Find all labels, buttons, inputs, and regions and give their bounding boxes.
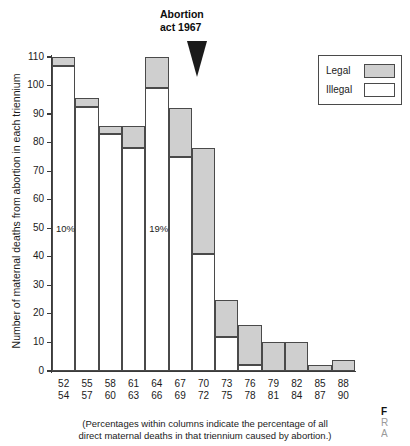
x-tick-label-88-90: 8890 <box>332 378 355 401</box>
bar-85-87 <box>308 365 331 371</box>
bar-61-63 <box>122 126 145 371</box>
y-tick-30 <box>47 285 51 286</box>
x-label-start-55-57: 55 <box>81 378 92 389</box>
x-tick-label-67-69: 6769 <box>169 378 192 401</box>
x-label-end-67-69: 69 <box>169 390 192 402</box>
legend-label-illegal: Illegal <box>326 84 356 95</box>
bar-segment-illegal-70-72 <box>192 254 215 371</box>
y-tick-label-50: 50 <box>0 223 44 233</box>
y-tick-label-60: 60 <box>0 194 44 204</box>
x-tick-label-61-63: 6163 <box>122 378 145 401</box>
bar-segment-legal-88-90 <box>332 360 355 371</box>
x-label-start-85-87: 85 <box>314 378 325 389</box>
bar-58-60 <box>99 126 122 371</box>
bar-segment-legal-52-54 <box>52 57 75 66</box>
y-tick-100 <box>47 85 51 86</box>
side-text-cropped: F R A <box>381 406 410 439</box>
y-tick-50 <box>47 228 51 229</box>
bar-segment-legal-85-87 <box>308 365 331 371</box>
bar-segment-illegal-52-54 <box>52 66 75 371</box>
caption-line-2: direct maternal deaths in that triennium… <box>60 430 350 442</box>
y-tick-label-20: 20 <box>0 308 44 318</box>
side-text-line-3: A <box>381 428 410 439</box>
x-label-end-61-63: 63 <box>122 390 145 402</box>
legend-swatch-illegal <box>364 83 395 97</box>
bar-segment-illegal-58-60 <box>99 134 122 371</box>
bar-segment-legal-58-60 <box>99 126 122 135</box>
bar-segment-legal-79-81 <box>262 342 285 371</box>
x-tick-label-82-84: 8284 <box>285 378 308 401</box>
x-tick-label-85-87: 8587 <box>308 378 331 401</box>
y-tick-70 <box>47 171 51 172</box>
bar-52-54 <box>52 57 75 371</box>
x-label-end-85-87: 87 <box>308 390 331 402</box>
y-tick-90 <box>47 113 51 114</box>
bar-segment-legal-76-78 <box>238 325 261 365</box>
x-label-end-82-84: 84 <box>285 390 308 402</box>
x-tick-label-76-78: 7678 <box>238 378 261 401</box>
x-label-start-58-60: 58 <box>105 378 116 389</box>
y-tick-0 <box>47 370 51 371</box>
x-tick-label-64-66: 6466 <box>145 378 168 401</box>
bar-82-84 <box>285 342 308 371</box>
figure-caption: (Percentages within columns indicate the… <box>60 418 350 441</box>
y-tick-10 <box>47 342 51 343</box>
bar-55-57 <box>75 98 98 371</box>
x-label-end-55-57: 57 <box>75 390 98 402</box>
legend-item-legal: Legal <box>326 63 395 78</box>
y-tick-label-40: 40 <box>0 251 44 261</box>
x-label-end-76-78: 78 <box>238 390 261 402</box>
bar-segment-illegal-55-57 <box>75 107 98 371</box>
x-label-end-73-75: 75 <box>215 390 238 402</box>
x-axis-line <box>51 371 356 372</box>
legend-item-illegal: Illegal <box>326 82 395 97</box>
y-tick-80 <box>47 142 51 143</box>
y-tick-label-100: 100 <box>0 80 44 90</box>
x-label-end-64-66: 66 <box>145 390 168 402</box>
x-label-start-52-54: 52 <box>58 378 69 389</box>
bar-73-75 <box>215 300 238 371</box>
bar-64-66 <box>145 57 168 371</box>
caption-line-1: (Percentages within columns indicate the… <box>82 418 328 429</box>
bar-segment-legal-73-75 <box>215 300 238 337</box>
legend-swatch-legal <box>364 64 395 78</box>
figure: Number of maternal deaths from abortion … <box>0 0 410 446</box>
x-tick-label-73-75: 7375 <box>215 378 238 401</box>
annotation-line-1: Abortion <box>160 8 204 20</box>
y-tick-label-80: 80 <box>0 137 44 147</box>
x-label-start-73-75: 73 <box>221 378 232 389</box>
bar-76-78 <box>238 325 261 371</box>
bar-segment-legal-55-57 <box>75 98 98 107</box>
y-tick-label-30: 30 <box>0 280 44 290</box>
x-tick-label-52-54: 5254 <box>52 378 75 401</box>
bar-79-81 <box>262 342 285 371</box>
x-label-start-61-63: 61 <box>128 378 139 389</box>
y-tick-label-90: 90 <box>0 109 44 119</box>
y-tick-110 <box>47 56 51 57</box>
y-tick-60 <box>47 199 51 200</box>
side-text-line-1: F <box>381 406 410 417</box>
down-triangle-icon <box>187 41 207 77</box>
bar-segment-legal-61-63 <box>122 126 145 149</box>
annotation-line-2: act 1967 <box>160 21 252 34</box>
percentage-label-52-54: 10% <box>56 223 75 234</box>
x-label-end-58-60: 60 <box>99 390 122 402</box>
percentage-label-64-66: 19% <box>149 223 168 234</box>
y-tick-40 <box>47 256 51 257</box>
bar-segment-legal-64-66 <box>145 57 168 88</box>
side-text-line-2: R <box>381 417 410 428</box>
y-tick-20 <box>47 313 51 314</box>
x-label-end-52-54: 54 <box>52 390 75 402</box>
y-tick-label-110: 110 <box>0 52 44 62</box>
y-tick-label-10: 10 <box>0 337 44 347</box>
x-label-start-67-69: 67 <box>175 378 186 389</box>
legend: Legal Illegal <box>318 55 402 105</box>
bar-segment-illegal-76-78 <box>238 365 261 371</box>
x-label-start-79-81: 79 <box>268 378 279 389</box>
bar-88-90 <box>332 360 355 371</box>
bar-segment-legal-67-69 <box>169 108 192 157</box>
x-label-start-64-66: 64 <box>151 378 162 389</box>
plot-area <box>52 57 355 371</box>
bar-segment-illegal-61-63 <box>122 148 145 371</box>
x-label-start-76-78: 76 <box>245 378 256 389</box>
